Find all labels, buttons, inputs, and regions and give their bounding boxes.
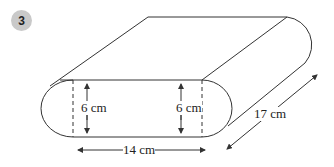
back-right-arc: [287, 17, 312, 63]
front-right-arc: [202, 80, 232, 137]
left-slant-edge: [50, 17, 148, 86]
front-left-arc: [41, 80, 73, 137]
right-height-label: 6 cm: [176, 101, 202, 115]
middle-slant-edge: [202, 17, 287, 80]
width-label: 14 cm: [123, 143, 155, 157]
depth-label: 17 cm: [254, 107, 286, 121]
left-height-label: 6 cm: [81, 101, 107, 115]
prism-diagram: [0, 0, 334, 167]
